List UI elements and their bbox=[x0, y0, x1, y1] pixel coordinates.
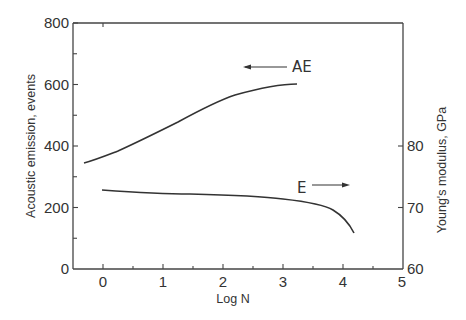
x-tick-3: 3 bbox=[279, 273, 287, 290]
y-tick-600: 600 bbox=[44, 76, 69, 93]
y-tick-200: 200 bbox=[44, 199, 69, 216]
e-label: E bbox=[297, 179, 306, 197]
x-tick-5: 5 bbox=[398, 273, 406, 290]
ae-series-line bbox=[84, 84, 297, 163]
chart: 0 200 400 600 800 0 1 2 3 4 5 60 70 80 L… bbox=[0, 0, 466, 320]
x-tick-2: 2 bbox=[219, 273, 227, 290]
y2-axis-title: Young's modulus, GPa bbox=[435, 107, 449, 233]
y-tick-400: 400 bbox=[44, 137, 69, 154]
left-tick-labels: 0 200 400 600 800 bbox=[44, 14, 69, 277]
y2-tick-60: 60 bbox=[407, 260, 424, 277]
x-tick-labels: 0 1 2 3 4 5 bbox=[99, 273, 406, 290]
x-tick-0: 0 bbox=[99, 273, 107, 290]
e-annotation: E bbox=[297, 179, 350, 197]
x-tick-1: 1 bbox=[159, 273, 167, 290]
y2-tick-80: 80 bbox=[407, 137, 424, 154]
y-tick-0: 0 bbox=[61, 260, 69, 277]
ae-label: AE bbox=[292, 58, 312, 76]
y-axis-title: Acoustic emission, events bbox=[24, 74, 38, 218]
right-tick-labels: 60 70 80 bbox=[407, 137, 424, 277]
x-axis-title: Log N bbox=[216, 292, 249, 306]
e-series-line bbox=[102, 190, 354, 233]
y2-tick-70: 70 bbox=[407, 199, 424, 216]
arrow-right-icon bbox=[342, 183, 350, 188]
ae-annotation: AE bbox=[243, 58, 312, 76]
arrow-left-icon bbox=[243, 65, 251, 70]
y-tick-800: 800 bbox=[44, 14, 69, 31]
x-tick-4: 4 bbox=[339, 273, 347, 290]
